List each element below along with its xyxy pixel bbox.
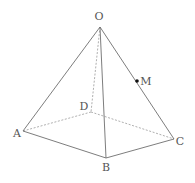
label-C: C: [176, 135, 184, 148]
label-A: A: [12, 127, 22, 140]
edge-OA: [23, 27, 100, 131]
label-D: D: [80, 100, 89, 113]
pyramid-svg: O M D A B C: [0, 0, 195, 183]
pyramid-diagram: O M D A B C: [0, 0, 195, 183]
edge-DC: [91, 112, 174, 139]
point-M-dot: [135, 79, 139, 83]
label-O: O: [94, 10, 103, 23]
edge-OC: [100, 27, 174, 139]
visible-edges: [23, 27, 174, 158]
edge-OB: [100, 27, 106, 158]
label-M: M: [140, 75, 151, 88]
edge-DA: [23, 112, 91, 131]
label-B: B: [102, 161, 110, 174]
edge-AB: [23, 131, 106, 158]
edge-BC: [106, 139, 174, 158]
edge-OD: [91, 27, 100, 112]
